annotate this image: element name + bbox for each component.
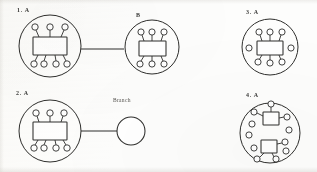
terminal-circle[interactable]	[31, 145, 37, 151]
panel-3-top-terminals	[256, 29, 285, 41]
terminal-circle[interactable]	[138, 29, 144, 35]
terminal-circle[interactable]	[149, 61, 155, 67]
terminal-circle[interactable]	[161, 29, 167, 35]
panel-3-label: 3. A	[246, 9, 259, 15]
panel-1-bottom-terminals	[31, 55, 70, 67]
terminal-circle[interactable]	[137, 61, 143, 67]
terminal-circle[interactable]	[47, 110, 53, 116]
topology-diagram	[0, 0, 317, 172]
panel-1-group[interactable]	[19, 15, 81, 77]
panel-1-node-box[interactable]	[33, 37, 67, 55]
terminal-circle[interactable]	[33, 110, 39, 116]
branch-label: Branch	[113, 97, 131, 103]
panel-4-group[interactable]	[240, 101, 300, 163]
panel-2-group[interactable]	[19, 100, 81, 162]
panel-b-group[interactable]	[125, 20, 179, 74]
terminal-circle[interactable]	[256, 29, 262, 35]
terminal-circle[interactable]	[267, 29, 273, 35]
panel-4-label: 4. A	[246, 92, 259, 98]
panel-2-top-terminals	[33, 110, 67, 122]
terminal-circle[interactable]	[149, 29, 155, 35]
free-terminal-circle[interactable]	[246, 132, 252, 138]
branch-circle[interactable]	[117, 117, 145, 145]
terminal-circle[interactable]	[273, 156, 279, 162]
terminal-circle[interactable]	[251, 109, 257, 115]
terminal-circle[interactable]	[47, 24, 53, 30]
terminal-circle[interactable]	[41, 61, 47, 67]
terminal-circle[interactable]	[41, 145, 47, 151]
terminal-circle[interactable]	[254, 156, 260, 162]
panel-2-bottom-terminals	[31, 140, 70, 151]
terminal-circle[interactable]	[53, 145, 59, 151]
terminal-circle[interactable]	[279, 29, 285, 35]
terminal-circle[interactable]	[64, 61, 70, 67]
panel-3-group[interactable]	[242, 19, 298, 75]
terminal-circle[interactable]	[64, 145, 70, 151]
terminal-circle[interactable]	[61, 110, 67, 116]
panel-4-upper-node-box[interactable]	[263, 112, 279, 125]
free-terminal-circle[interactable]	[246, 45, 252, 51]
terminal-circle[interactable]	[161, 61, 167, 67]
figure-canvas: 1. A B 3. A 2. A 4. A Branch	[0, 0, 317, 172]
panel-2-node-box[interactable]	[33, 122, 67, 140]
free-terminal-circle[interactable]	[283, 148, 289, 154]
panel-b-label: B	[136, 12, 141, 18]
panel-1-label: 1. A	[17, 7, 30, 13]
terminal-circle[interactable]	[53, 61, 59, 67]
terminal-circle[interactable]	[62, 24, 68, 30]
terminal-circle[interactable]	[255, 59, 261, 65]
panel-2-label: 2. A	[16, 90, 29, 96]
free-terminal-circle[interactable]	[251, 145, 257, 151]
panel-3-bottom-terminals	[255, 55, 285, 66]
panel-3-node-box[interactable]	[257, 41, 283, 55]
terminal-circle[interactable]	[279, 59, 285, 65]
free-terminal-circle[interactable]	[249, 121, 255, 127]
free-terminal-circle[interactable]	[288, 45, 294, 51]
terminal-circle[interactable]	[31, 61, 37, 67]
terminal-circle[interactable]	[267, 60, 273, 66]
terminal-circle[interactable]	[32, 24, 38, 30]
panel-b-bottom-terminals	[137, 56, 167, 67]
terminal-circle[interactable]	[268, 101, 274, 107]
free-terminal-circle[interactable]	[286, 127, 292, 133]
panel-b-top-terminals	[138, 29, 167, 41]
terminal-circle[interactable]	[282, 139, 288, 145]
terminal-circle[interactable]	[284, 114, 290, 120]
panel-b-node-box[interactable]	[139, 41, 166, 56]
panel-1-top-terminals	[32, 24, 68, 37]
panel-4-lower-node-box[interactable]	[261, 140, 277, 153]
